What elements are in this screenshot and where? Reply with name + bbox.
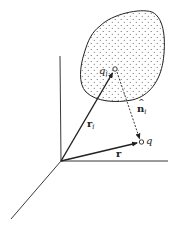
label-n-hat-i: ni	[137, 103, 147, 116]
label-q: q	[146, 135, 152, 146]
z-axis	[60, 56, 61, 161]
vector-diagram: qi ri r q ^ ni	[0, 0, 177, 233]
vector-r	[61, 143, 137, 161]
charge-region-outline	[81, 11, 165, 102]
field-point-q	[139, 140, 143, 144]
label-r-i: ri	[87, 118, 95, 131]
charge-region	[81, 11, 165, 102]
label-r: r	[116, 148, 122, 159]
x-axis	[11, 161, 61, 219]
source-point-q-i	[113, 67, 117, 71]
